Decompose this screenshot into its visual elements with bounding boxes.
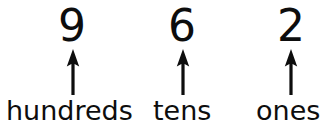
arrow-up-icon-ones <box>283 49 299 95</box>
arrow-up-icon-tens <box>175 49 191 95</box>
place-label-tens: tens <box>153 96 211 126</box>
arrow-up-icon-hundreds <box>65 49 81 95</box>
digit-tens: 6 <box>152 4 212 48</box>
digit-ones: 2 <box>261 4 321 48</box>
place-value-diagram: 9 6 2 hundreds tens ones <box>0 0 328 129</box>
digit-hundreds: 9 <box>42 4 102 48</box>
place-label-hundreds: hundreds <box>6 96 133 126</box>
place-label-ones: ones <box>256 96 320 126</box>
